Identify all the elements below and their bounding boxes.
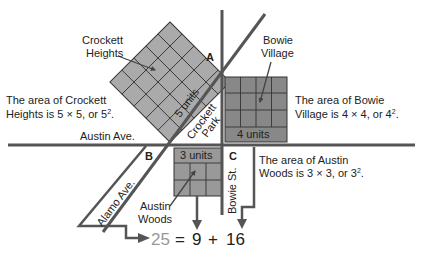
caption-bowie: The area of Bowie Village is 4 × 4, or 4… <box>295 94 399 120</box>
bowie-name-1: Bowie <box>263 34 293 46</box>
equation: 25 = 9 + 16 <box>151 230 245 249</box>
bowie-name-2: Village <box>261 47 294 59</box>
alamo-ave-label: Alamo Ave. <box>94 177 137 229</box>
bowie-side-label: 4 units <box>237 128 270 140</box>
svg-text:Woods is 3 × 3, or 32.: Woods is 3 × 3, or 32. <box>259 167 364 179</box>
equation-b: 16 <box>226 230 245 249</box>
alamo-ave-edge <box>79 146 146 238</box>
svg-text:The area of Austin: The area of Austin <box>259 154 348 166</box>
pythagorean-map-diagram: 5 units Crockett Park Alamo Ave. Bowie S… <box>0 0 423 254</box>
equation-a: 9 <box>192 230 201 249</box>
arrow-to-16 <box>237 219 247 229</box>
caption-crockett: The area of Crockett Heights is 5 × 5, o… <box>6 94 114 120</box>
austin-name-1: Austin <box>140 200 171 212</box>
svg-text:The area of Crockett: The area of Crockett <box>6 94 106 106</box>
bowie-st-edge <box>242 147 254 222</box>
point-b: B <box>145 150 153 162</box>
austin-ave-label: Austin Ave. <box>80 130 135 142</box>
equation-plus: + <box>208 230 218 249</box>
svg-text:The area of Bowie: The area of Bowie <box>295 94 384 106</box>
arrow-to-25 <box>138 233 150 243</box>
equation-lhs: 25 <box>151 230 170 249</box>
crockett-name-1: Crockett <box>82 34 123 46</box>
crockett-name-2: Heights <box>86 47 124 59</box>
austin-name-2: Woods <box>138 213 173 225</box>
point-a: A <box>206 51 214 63</box>
bowie-st-label: Bowie St. <box>226 168 238 214</box>
austin-side-label: 3 units <box>180 149 213 161</box>
equation-eq: = <box>175 230 185 249</box>
svg-text:Village is 4 × 4, or 42.: Village is 4 × 4, or 42. <box>295 108 399 120</box>
arrow-to-9 <box>192 220 202 230</box>
caption-austin: The area of Austin Woods is 3 × 3, or 32… <box>259 154 364 179</box>
svg-text:Heights is 5 × 5, or 52.: Heights is 5 × 5, or 52. <box>6 108 114 120</box>
point-c: C <box>229 150 237 162</box>
